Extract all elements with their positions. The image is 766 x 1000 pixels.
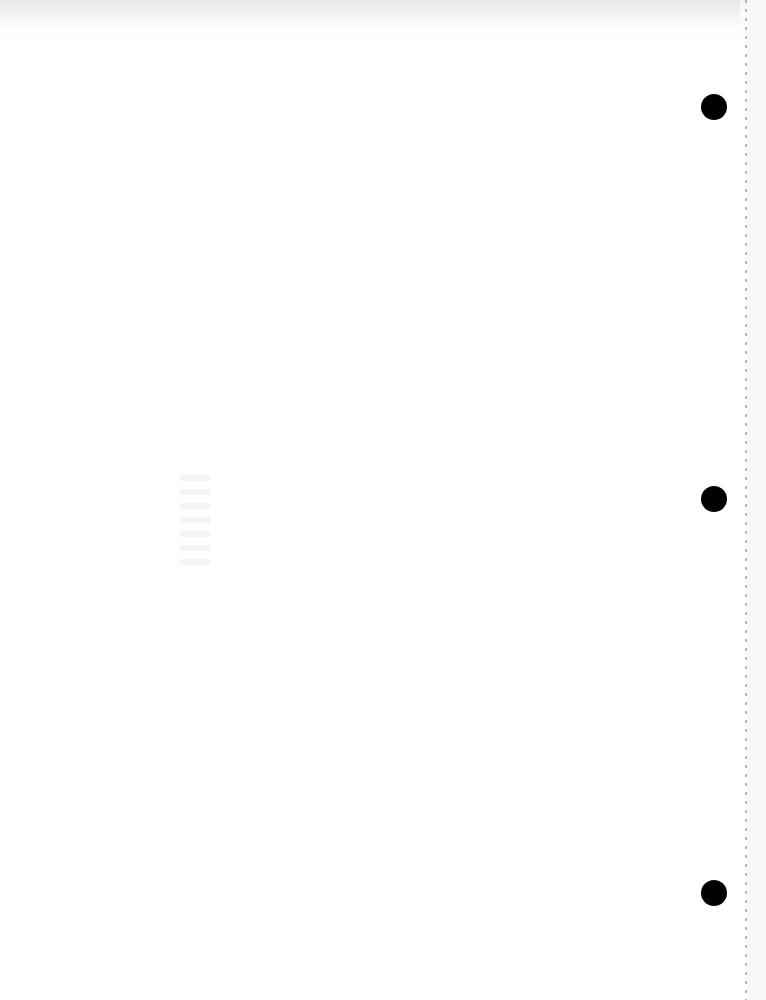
perforation-line	[745, 0, 747, 1000]
faint-bleed-mark	[180, 475, 210, 565]
punch-hole-middle	[701, 486, 727, 512]
punch-hole-top	[701, 94, 727, 120]
punch-hole-bottom	[701, 880, 727, 906]
right-margin	[747, 0, 766, 1000]
scan-bleed-through	[0, 0, 740, 30]
blank-page	[0, 0, 766, 1000]
